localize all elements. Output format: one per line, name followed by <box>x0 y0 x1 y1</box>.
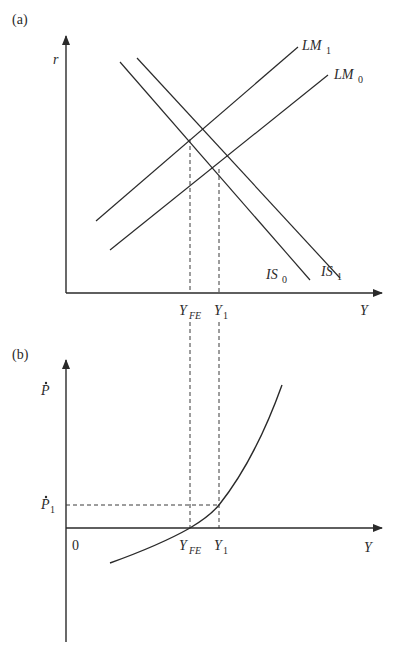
svg-text:Y: Y <box>179 538 189 553</box>
svg-text:IS: IS <box>320 264 333 279</box>
is1-label: IS 1 <box>320 264 342 282</box>
y-axis-label-a: Y <box>360 303 370 318</box>
svg-text:Y: Y <box>179 303 189 318</box>
is0-label: IS 0 <box>265 267 287 285</box>
panel-a-tag: (a) <box>12 12 28 28</box>
svg-text:P: P <box>40 383 50 398</box>
svg-text:FE: FE <box>188 310 201 321</box>
yfe-label-b: Y FE <box>179 538 201 556</box>
svg-text:1: 1 <box>223 310 228 321</box>
svg-text:LM: LM <box>301 38 323 53</box>
lm0-curve <box>110 75 328 250</box>
is-lm-inflation-diagram: (a) r Y LM 1 LM 0 IS 0 IS 1 <box>0 0 398 657</box>
svg-text:1: 1 <box>337 271 342 282</box>
lm1-label: LM 1 <box>301 38 331 56</box>
svg-text:0: 0 <box>358 74 363 85</box>
p1-label: P 1 <box>40 496 55 515</box>
lm1-curve <box>96 47 298 221</box>
r-axis-label: r <box>53 52 59 67</box>
yfe-label-a: Y FE <box>179 303 201 321</box>
inflation-output-curve <box>110 385 282 563</box>
panel-b-tag: (b) <box>12 347 29 363</box>
svg-text:0: 0 <box>282 274 287 285</box>
svg-text:1: 1 <box>50 504 55 515</box>
is1-curve <box>137 58 340 278</box>
y1-label-b: Y 1 <box>214 538 228 556</box>
svg-text:1: 1 <box>223 545 228 556</box>
svg-text:IS: IS <box>265 267 278 282</box>
inflation-axis-label: P <box>40 382 50 398</box>
y-axis-label-b: Y <box>364 540 374 555</box>
svg-text:FE: FE <box>188 545 201 556</box>
panel-b: (b) P Y 0 P 1 Y FE Y 1 <box>12 347 382 642</box>
lm0-label: LM 0 <box>333 67 363 85</box>
origin-label: 0 <box>72 538 79 553</box>
y1-label-a: Y 1 <box>214 303 228 321</box>
svg-text:LM: LM <box>333 67 355 82</box>
svg-text:1: 1 <box>326 45 331 56</box>
is0-curve <box>120 62 310 280</box>
svg-text:P: P <box>40 497 50 512</box>
panel-a: (a) r Y LM 1 LM 0 IS 0 IS 1 <box>12 12 382 321</box>
